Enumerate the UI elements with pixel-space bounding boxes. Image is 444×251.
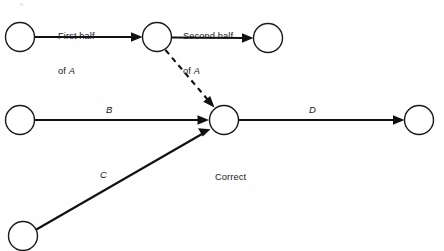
node-start-a[interactable] <box>6 23 35 52</box>
edge-b <box>35 115 210 125</box>
arrow-head-icon <box>393 115 405 125</box>
edge-label-second-half-of-a-prefix: of <box>183 66 194 76</box>
edge-label-second-half-of-a-line1: Second half <box>183 31 233 43</box>
node-start-b[interactable] <box>6 106 35 135</box>
node-start-c[interactable] <box>9 222 38 251</box>
edge-label-second-half-of-a: Second half of A <box>183 8 233 101</box>
diagram-canvas: B C D First half of A Second half of A C… <box>0 0 444 251</box>
arrow-head-icon <box>198 115 210 125</box>
node-a-finish[interactable] <box>254 24 283 53</box>
edge-label-c: C <box>100 169 107 180</box>
edge-letter-label-layer: B C D <box>100 104 316 180</box>
edge-label-b: B <box>106 104 113 115</box>
edge-label-first-half-of-a-line1: First half <box>58 31 95 43</box>
edge-c <box>36 128 211 230</box>
node-merge[interactable] <box>210 106 239 135</box>
edge-label-first-half-of-a-prefix: of <box>58 66 69 76</box>
edge-label-first-half-of-a-activity: A <box>69 66 75 76</box>
edge-d <box>239 115 405 125</box>
edge-label-second-half-of-a-line2: of A <box>183 66 233 78</box>
node-a-midpoint[interactable] <box>143 23 172 52</box>
node-finish-d[interactable] <box>405 106 434 135</box>
edge-label-second-half-of-a-activity: A <box>194 66 200 76</box>
diagram-caption: Correct <box>215 172 246 182</box>
edge-label-first-half-of-a-line2: of A <box>58 66 95 78</box>
edge-c-line <box>36 134 203 230</box>
arrow-head-icon <box>242 33 254 43</box>
edge-label-d: D <box>309 104 316 115</box>
arrow-head-icon <box>131 32 143 42</box>
edge-label-first-half-of-a: First half of A <box>58 8 95 101</box>
